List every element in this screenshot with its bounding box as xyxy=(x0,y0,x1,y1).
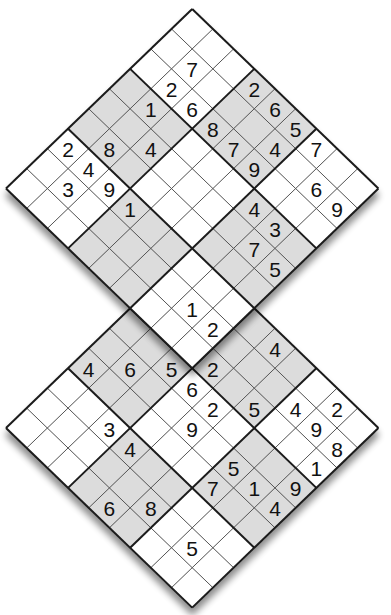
given-digit: 3 xyxy=(269,218,281,241)
given-digit: 6 xyxy=(186,98,198,121)
given-digit: 9 xyxy=(186,418,198,441)
given-digit: 4 xyxy=(269,338,281,361)
given-digit: 6 xyxy=(124,358,136,381)
given-digit: 7 xyxy=(186,58,198,81)
given-digit: 2 xyxy=(207,358,219,381)
given-digit: 5 xyxy=(269,258,281,281)
given-digit: 7 xyxy=(207,477,219,500)
given-digit: 1 xyxy=(145,98,157,121)
given-digit: 6 xyxy=(310,178,322,201)
given-digit: 9 xyxy=(104,178,116,201)
given-digit: 8 xyxy=(145,497,157,520)
given-digit: 7 xyxy=(310,138,322,161)
given-digit: 5 xyxy=(290,118,302,141)
given-digit: 5 xyxy=(166,358,178,381)
given-digit: 4 xyxy=(124,438,136,461)
given-digit: 8 xyxy=(104,138,116,161)
given-digit: 2 xyxy=(207,398,219,421)
given-digit: 2 xyxy=(62,138,74,161)
given-digit: 4 xyxy=(269,138,281,161)
given-digit: 3 xyxy=(104,418,116,441)
given-digit: 2 xyxy=(166,78,178,101)
top-grid: 265774692687914347582491312 xyxy=(6,9,378,368)
given-digit: 8 xyxy=(331,438,343,461)
twin-sudoku-board: 424982515629695144734856 265774692687914… xyxy=(0,0,391,615)
given-digit: 7 xyxy=(248,238,260,261)
given-digit: 4 xyxy=(145,138,157,161)
given-digit: 7 xyxy=(228,138,240,161)
given-digit: 6 xyxy=(104,497,116,520)
given-digit: 6 xyxy=(186,378,198,401)
given-digit: 1 xyxy=(124,198,136,221)
given-digit: 8 xyxy=(207,118,219,141)
given-digit: 1 xyxy=(248,477,260,500)
given-digit: 5 xyxy=(248,398,260,421)
given-digit: 9 xyxy=(290,477,302,500)
given-digit: 4 xyxy=(83,158,95,181)
given-digit: 9 xyxy=(331,198,343,221)
given-digit: 3 xyxy=(62,178,74,201)
given-digit: 4 xyxy=(248,198,260,221)
given-digit: 9 xyxy=(248,158,260,181)
given-digit: 1 xyxy=(310,457,322,480)
given-digit: 4 xyxy=(290,398,302,421)
given-digit: 5 xyxy=(186,537,198,560)
given-digit: 4 xyxy=(83,358,95,381)
given-digit: 2 xyxy=(207,318,219,341)
given-digit: 2 xyxy=(331,398,343,421)
given-digit: 9 xyxy=(310,418,322,441)
given-digit: 4 xyxy=(269,497,281,520)
given-digit: 1 xyxy=(186,298,198,321)
given-digit: 2 xyxy=(248,78,260,101)
given-digit: 6 xyxy=(269,98,281,121)
given-digit: 5 xyxy=(228,457,240,480)
